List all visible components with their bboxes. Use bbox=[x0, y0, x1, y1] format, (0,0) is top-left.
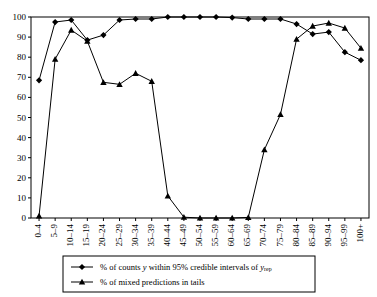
x-axis: 0–45–910–1415–1920–2425–2930–3435–3940–4… bbox=[33, 218, 365, 247]
x-tick-label: 65–69 bbox=[242, 224, 252, 247]
y-tick-label: 10 bbox=[17, 193, 27, 203]
x-tick-label: 55–59 bbox=[210, 224, 220, 247]
x-tick-label: 15–19 bbox=[81, 224, 91, 247]
data-point-diamond bbox=[181, 14, 187, 20]
x-tick-label: 75–79 bbox=[275, 224, 285, 247]
data-point-diamond bbox=[229, 15, 235, 21]
series-2 bbox=[36, 20, 364, 221]
y-tick-label: 90 bbox=[17, 32, 27, 42]
plot-frame bbox=[31, 17, 369, 218]
y-tick-label: 100 bbox=[13, 12, 27, 22]
x-tick-label: 0–4 bbox=[33, 224, 43, 238]
data-point-triangle bbox=[100, 79, 106, 85]
x-tick-label: 25–29 bbox=[114, 224, 124, 247]
series-1 bbox=[36, 14, 364, 84]
y-tick-label: 60 bbox=[17, 92, 27, 102]
legend-item-1[interactable]: % of counts y within 95% credible interv… bbox=[71, 262, 272, 272]
x-tick-label: 40–44 bbox=[162, 224, 172, 247]
x-tick-label: 5–9 bbox=[49, 224, 59, 238]
x-tick-label: 95–99 bbox=[339, 224, 349, 247]
data-point-triangle bbox=[132, 70, 138, 76]
data-point-triangle bbox=[36, 213, 42, 219]
x-tick-label: 100+ bbox=[355, 224, 365, 243]
chart-container: 01020304050607080901000–45–910–1415–1920… bbox=[0, 0, 377, 297]
data-point-diamond bbox=[197, 14, 203, 20]
y-tick-label: 70 bbox=[17, 72, 27, 82]
y-tick-label: 50 bbox=[17, 113, 27, 123]
x-tick-label: 10–14 bbox=[65, 224, 75, 247]
data-point-diamond bbox=[165, 14, 171, 20]
y-tick-label: 20 bbox=[17, 173, 27, 183]
data-point-triangle bbox=[326, 20, 332, 26]
x-tick-label: 35–39 bbox=[146, 224, 156, 247]
y-tick-label: 30 bbox=[17, 153, 27, 163]
x-tick-label: 60–64 bbox=[226, 224, 236, 247]
data-point-diamond bbox=[36, 77, 42, 83]
y-tick-label: 40 bbox=[17, 133, 27, 143]
x-tick-label: 45–49 bbox=[178, 224, 188, 247]
y-axis: 0102030405060708090100 bbox=[13, 12, 32, 223]
data-point-triangle bbox=[52, 56, 58, 62]
series-line bbox=[39, 23, 361, 218]
x-tick-label: 85–89 bbox=[307, 224, 317, 247]
data-point-triangle bbox=[149, 78, 155, 84]
data-point-diamond bbox=[293, 21, 299, 27]
legend: % of counts y within 95% credible interv… bbox=[63, 256, 315, 292]
x-tick-label: 20–24 bbox=[97, 224, 107, 247]
data-point-triangle bbox=[68, 27, 74, 33]
x-tick-label: 70–74 bbox=[258, 224, 268, 247]
data-point-diamond bbox=[213, 14, 219, 20]
data-point-triangle bbox=[261, 146, 267, 152]
plot-border bbox=[31, 17, 369, 218]
data-point-diamond bbox=[310, 31, 316, 37]
x-tick-label: 90–94 bbox=[323, 224, 333, 247]
y-tick-label: 0 bbox=[22, 213, 27, 223]
data-point-diamond bbox=[358, 57, 364, 63]
x-tick-label: 50–54 bbox=[194, 224, 204, 247]
x-tick-label: 30–34 bbox=[130, 224, 140, 247]
legend-label: % of counts y within 95% credible interv… bbox=[100, 262, 272, 272]
line-chart: 01020304050607080901000–45–910–1415–1920… bbox=[0, 0, 377, 297]
data-point-triangle bbox=[277, 111, 283, 117]
data-point-triangle bbox=[165, 193, 171, 199]
y-tick-label: 80 bbox=[17, 52, 27, 62]
data-point-diamond bbox=[52, 19, 58, 25]
legend-label: % of mixed predictions in tails bbox=[100, 277, 205, 287]
x-tick-label: 80–84 bbox=[291, 224, 301, 247]
